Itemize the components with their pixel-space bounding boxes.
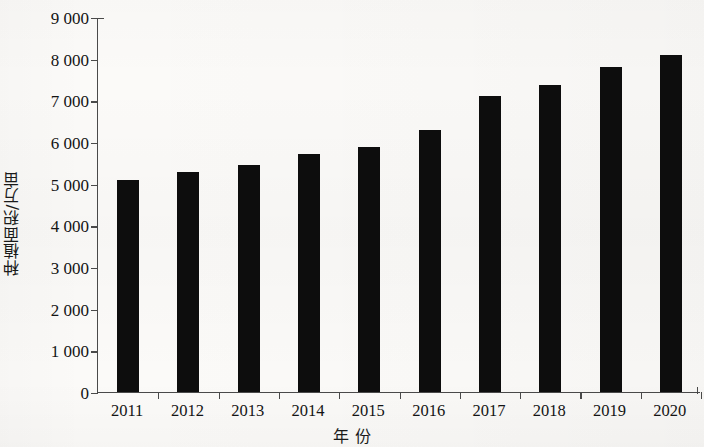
y-axis-tick-label: 8 000 [51,51,89,68]
x-axis-tick-label: 2015 [352,401,385,421]
x-axis-tick [339,392,340,399]
y-axis-tick-label: 1 000 [51,343,89,360]
y-axis-tick [91,18,98,19]
x-axis-tick [641,392,642,399]
x-axis-tick-label: 2013 [231,401,264,421]
x-axis-tick [460,392,461,399]
x-axis-tick-label: 2012 [171,401,204,421]
x-axis-title: 年 份 [0,423,704,447]
y-axis-tick [91,393,98,394]
bar [419,130,441,392]
chart-figure: 种植面积/万亩 01 0002 0003 0004 0005 0006 0007… [0,0,704,447]
y-axis-tick [91,310,98,311]
bar [600,67,622,392]
bar [238,165,260,392]
bar [358,147,380,392]
y-axis-tick-label: 6 000 [51,135,89,152]
bar [539,85,561,393]
x-axis-tick [400,392,401,399]
x-axis-tick-label: 2014 [292,401,325,421]
bar [117,180,139,392]
x-axis-tick [219,392,220,399]
x-axis-tick-label: 2020 [653,401,686,421]
x-axis-tick [520,392,521,399]
x-axis-tick [279,392,280,399]
y-axis-tick [91,143,98,144]
x-axis-tick [158,392,159,399]
y-axis-tick [91,268,98,269]
x-axis-tick-label: 2011 [111,401,143,421]
x-axis-tick [580,392,581,399]
y-axis-tick [91,226,98,227]
bar [298,154,320,392]
y-axis-tick [91,185,98,186]
y-axis-tick-label: 2 000 [51,301,89,318]
y-axis-title-text: 种植面积/万亩 [1,171,25,276]
plot-area: 01 0002 0003 0004 0005 0006 0007 0008 00… [97,18,700,393]
x-axis-tick-label: 2018 [533,401,566,421]
x-axis-tick-label: 2016 [412,401,445,421]
bar [479,96,501,392]
y-axis-tick-label: 4 000 [51,218,89,235]
x-axis-tick-label: 2019 [593,401,626,421]
y-axis-tick-label: 3 000 [51,260,89,277]
y-axis-tick-label: 9 000 [51,10,89,27]
x-axis-tick [701,392,702,399]
y-axis-tick-label: 0 [81,385,90,402]
y-axis-tick [91,351,98,352]
bar [177,172,199,392]
bar [660,55,682,392]
y-axis-tick [91,60,98,61]
x-axis-tick-label: 2017 [472,401,505,421]
y-axis-tick [91,101,98,102]
y-axis-tick-label: 7 000 [51,93,89,110]
y-axis-tick-label: 5 000 [51,176,89,193]
y-axis-title: 种植面积/万亩 [0,0,26,447]
